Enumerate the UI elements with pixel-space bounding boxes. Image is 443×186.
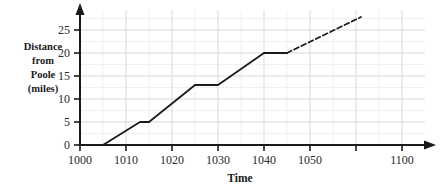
y-tick-label-5: 5 [64, 115, 70, 129]
x-axis-tick-labels: 1000 1010 1020 1030 1040 1050 1100 [68, 153, 414, 167]
y-tick-label-0: 0 [64, 138, 70, 152]
y-axis-title-line-3: Poole [31, 69, 56, 80]
x-axis-title: Time [227, 172, 252, 184]
y-axis-title: Distance from Poole (miles) [24, 41, 63, 95]
x-tick-label-1010: 1010 [114, 153, 138, 167]
y-axis-arrowhead [76, 3, 85, 15]
y-axis-title-line-4: (miles) [28, 83, 59, 95]
x-tick-label-1100: 1100 [390, 153, 414, 167]
x-tick-label-1050: 1050 [298, 153, 322, 167]
major-gridlines-horizontal [80, 30, 425, 122]
x-tick-label-1040: 1040 [252, 153, 276, 167]
x-axis-arrowhead [424, 141, 436, 150]
chart-svg: 0 5 10 15 20 25 1000 1010 1020 1030 1040… [0, 0, 443, 186]
y-tick-label-15: 15 [58, 69, 70, 83]
y-tick-label-25: 25 [58, 23, 70, 37]
series-journey-dashed [287, 17, 361, 53]
x-tick-label-1000: 1000 [68, 153, 92, 167]
y-tick-label-10: 10 [58, 92, 70, 106]
x-tick-label-1020: 1020 [160, 153, 184, 167]
distance-time-chart: 0 5 10 15 20 25 1000 1010 1020 1030 1040… [0, 0, 443, 186]
x-tick-label-1030: 1030 [206, 153, 230, 167]
y-axis-title-line-1: Distance [24, 41, 63, 52]
y-axis-title-line-2: from [32, 55, 54, 66]
